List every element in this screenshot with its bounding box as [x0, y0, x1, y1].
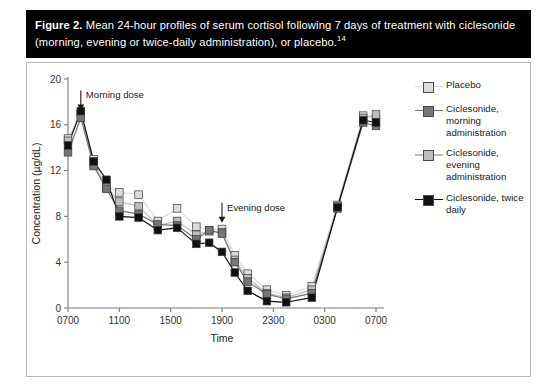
data-point [231, 258, 239, 266]
x-axis-tick-label: 0700 [57, 315, 80, 326]
data-point [103, 176, 111, 184]
data-point [372, 111, 380, 119]
data-point [173, 205, 181, 213]
caption-reference: 14 [337, 34, 346, 43]
y-axis-tick-label: 4 [55, 257, 61, 268]
x-axis-tick-label: 2300 [262, 315, 285, 326]
data-point [244, 278, 252, 286]
data-point [193, 240, 201, 248]
data-point [193, 223, 201, 231]
figure-caption: Figure 2. Mean 24-hour profiles of serum… [26, 10, 531, 58]
data-point [103, 185, 111, 193]
data-point [263, 297, 271, 305]
data-point [334, 203, 342, 211]
y-axis-tick-label: 20 [50, 74, 62, 85]
data-point [173, 224, 181, 232]
dose-annotation-label: Evening dose [227, 202, 285, 213]
x-axis-title: Time [211, 332, 234, 344]
y-axis-tick-label: 16 [50, 119, 62, 130]
data-point [308, 294, 316, 302]
y-axis-tick-label: 8 [55, 211, 61, 222]
data-point [90, 158, 98, 166]
data-point [135, 202, 143, 210]
figure-caption-text: Mean 24-hour profiles of serum cortisol … [35, 19, 515, 48]
figure-container: Figure 2. Mean 24-hour profiles of serum… [0, 0, 550, 389]
data-point [218, 248, 226, 256]
legend-item: Placebo [415, 79, 531, 94]
x-axis-tick-label: 1900 [211, 315, 234, 326]
data-point [154, 226, 162, 234]
dose-arrow-head [219, 217, 226, 223]
data-point [282, 298, 290, 306]
legend-item: Ciclesonide, morning administration [415, 103, 531, 138]
data-point [64, 148, 72, 156]
plot-panel: 0481216200700110015001900230003000700Tim… [26, 62, 531, 377]
data-point [205, 226, 213, 234]
legend-label: Ciclesonide, twice daily [443, 192, 531, 216]
data-point [359, 116, 367, 124]
data-point [372, 119, 380, 127]
legend-label: Ciclesonide, morning administration [443, 103, 531, 138]
legend-marker-icon [415, 104, 443, 118]
legend-item: Ciclesonide, evening administration [415, 147, 531, 182]
data-point [205, 239, 213, 247]
y-axis-title: Concentration (µg/dL) [30, 143, 42, 245]
figure-number: Figure 2. [35, 19, 83, 31]
data-point [218, 230, 226, 238]
data-point [64, 142, 72, 150]
legend-marker-icon [415, 80, 443, 94]
legend-marker-icon [415, 148, 443, 162]
x-axis-tick-label: 1100 [109, 315, 131, 326]
x-axis-tick-label: 0300 [314, 315, 337, 326]
data-point [135, 191, 143, 199]
data-point [116, 213, 124, 221]
legend-marker-icon [415, 193, 443, 207]
data-point [116, 189, 124, 197]
x-axis-tick-label: 1500 [160, 315, 183, 326]
data-point [77, 114, 85, 122]
x-axis-tick-label: 0700 [365, 315, 388, 326]
legend-item: Ciclesonide, twice daily [415, 192, 531, 216]
y-axis-tick-label: 12 [50, 165, 62, 176]
data-point [231, 269, 239, 277]
data-point [244, 287, 252, 295]
y-axis-tick-label: 0 [55, 303, 61, 314]
data-point [135, 214, 143, 222]
dose-annotation-label: Morning dose [86, 89, 144, 100]
data-point [263, 290, 271, 298]
chart-legend: PlaceboCiclesonide, morning administrati… [415, 79, 531, 225]
legend-label: Ciclesonide, evening administration [443, 147, 531, 182]
data-point [116, 198, 124, 206]
legend-label: Placebo [443, 79, 481, 91]
